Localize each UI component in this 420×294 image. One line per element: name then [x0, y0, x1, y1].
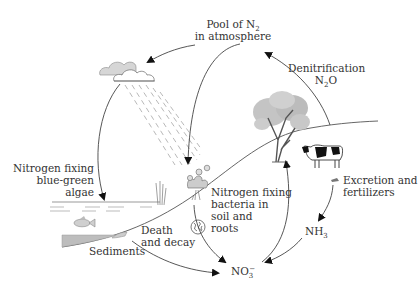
nitrate-subscript: 3 — [249, 272, 253, 280]
denitrification-o: O — [329, 74, 338, 86]
water-icon — [50, 202, 160, 211]
label-ammonia: NH3 — [305, 225, 328, 237]
excretion-line1: Excretion and — [343, 174, 417, 186]
decay-line1: Death — [141, 224, 195, 236]
label-nitrogen-pool: Pool of N2 in atmosphere — [190, 18, 276, 42]
nitrogen-cycle-diagram: Pool of N2 in atmosphere Denitrification… — [0, 0, 420, 294]
algae-line1: Nitrogen fixing — [6, 162, 94, 174]
label-sediments: Sediments — [89, 245, 145, 257]
arrow-cloud-to-algae — [98, 84, 120, 199]
diagram-graphics — [0, 0, 420, 294]
bacteria-line4: roots — [211, 222, 292, 234]
decay-line2: and decay — [141, 236, 195, 248]
label-nitrate: NO3− — [231, 265, 255, 277]
reed-icon — [156, 181, 166, 205]
label-algae: Nitrogen fixing blue-green algae — [6, 162, 94, 198]
flower-plant-icon — [187, 165, 209, 200]
fish-icon — [74, 216, 95, 227]
arrow-pool-to-plant — [188, 44, 240, 163]
arrow-ammonia-to-nitrate — [266, 238, 302, 262]
bacteria-line2: bacteria in — [211, 198, 292, 210]
excretion-line2: fertilizers — [343, 186, 417, 198]
ammonia-subscript: 3 — [323, 232, 327, 240]
arrow-excretion-to-ammonia — [319, 185, 333, 220]
label-decay: Death and decay — [141, 224, 195, 248]
algae-line3: algae — [6, 186, 94, 198]
bacteria-line3: soil and — [211, 210, 292, 222]
label-denitrification: Denitrification N2O — [288, 62, 364, 86]
manure-icon — [331, 178, 339, 182]
label-bacteria: Nitrogen fixing bacteria in soil and roo… — [211, 186, 292, 234]
ammonia-nh: NH — [305, 225, 323, 237]
sediments-text: Sediments — [89, 245, 145, 257]
pool-line2: in atmosphere — [190, 30, 276, 42]
arrow-pool-to-cloud — [148, 45, 195, 62]
label-excretion: Excretion and fertilizers — [343, 174, 417, 198]
denitrification-n: N — [315, 74, 324, 86]
cloud-icon — [100, 62, 155, 81]
pool-line1: Pool of N — [206, 18, 255, 30]
denitrification-line1: Denitrification — [288, 62, 364, 74]
bacteria-line1: Nitrogen fixing — [211, 186, 292, 198]
algae-line2: blue-green — [6, 174, 94, 186]
nitrate-no: NO — [231, 265, 249, 277]
tree-icon — [253, 91, 310, 162]
nitrate-superscript: − — [249, 265, 255, 273]
rain-icon — [125, 85, 202, 165]
cow-icon — [302, 145, 343, 168]
